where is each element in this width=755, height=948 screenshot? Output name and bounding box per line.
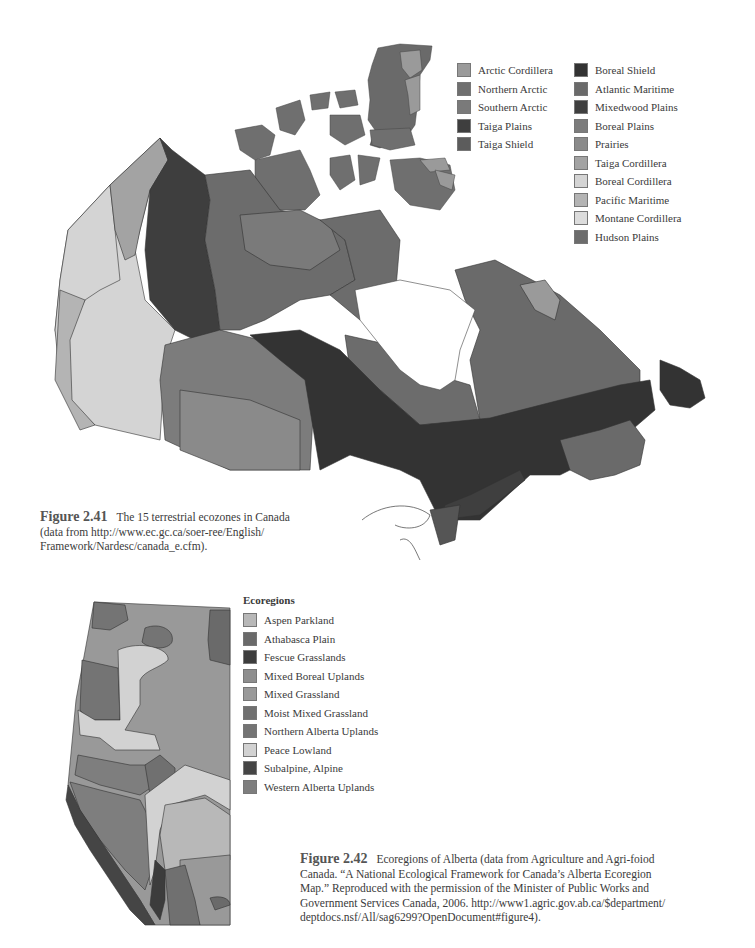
legend-item: Pacific Maritime [574, 191, 681, 210]
legend-item: Mixed Grassland [243, 685, 378, 704]
legend-swatch [243, 632, 257, 646]
legend-swatch [457, 63, 471, 77]
legend-item: Mixedwood Plains [574, 98, 681, 117]
legend-label: Mixedwood Plains [595, 101, 678, 113]
caption-line: Government Services Canada, 2006. http:/… [300, 896, 750, 911]
legend-label: Aspen Parkland [264, 614, 334, 626]
legend-swatch [243, 706, 257, 720]
legend-swatch [457, 137, 471, 151]
legend-label: Mixed Boreal Uplands [264, 670, 364, 682]
legend-label: Western Alberta Uplands [264, 781, 374, 793]
legend-swatch [574, 156, 588, 170]
legend-item: Western Alberta Uplands [243, 778, 378, 797]
legend-swatch [243, 650, 257, 664]
legend-swatch [243, 780, 257, 794]
legend-swatch [457, 119, 471, 133]
legend-swatch [574, 174, 588, 188]
legend-swatch [243, 724, 257, 738]
legend-swatch [243, 613, 257, 627]
legend-item: Athabasca Plain [243, 630, 378, 649]
legend-item: Prairies [574, 135, 681, 154]
legend-label: Hudson Plains [595, 231, 659, 243]
legend-label: Athabasca Plain [264, 633, 335, 645]
legend-label: Taiga Shield [478, 138, 533, 150]
legend-label: Boreal Shield [595, 64, 655, 76]
legend-label: Pacific Maritime [595, 194, 669, 206]
caption-line: The 15 terrestrial ecozones in Canada [116, 511, 289, 523]
legend-item: Fescue Grasslands [243, 648, 378, 667]
legend-item: Northern Alberta Uplands [243, 722, 378, 741]
figure-242-caption: Figure 2.42Ecoregions of Alberta (data f… [300, 852, 750, 925]
legend-swatch [574, 230, 588, 244]
figure-number: Figure 2.41 [40, 509, 107, 524]
legend-label: Arctic Cordillera [478, 64, 553, 76]
legend-item: Aspen Parkland [243, 611, 378, 630]
legend-swatch [243, 761, 257, 775]
legend-item: Taiga Plains [457, 117, 553, 136]
caption-line: Map.” Reproduced with the permission of … [300, 881, 750, 896]
legend-item: Peace Lowland [243, 741, 378, 760]
legend-label: Boreal Cordillera [595, 175, 672, 187]
ecozone-legend-column-1: Arctic Cordillera Northern Arctic Southe… [457, 61, 553, 154]
alberta-ecoregion-map [0, 570, 240, 940]
ecozone-legend-column-2: Boreal Shield Atlantic Maritime Mixedwoo… [574, 61, 681, 246]
legend-item: Montane Cordillera [574, 209, 681, 228]
arctic-islands [235, 44, 455, 210]
legend-item: Mixed Boreal Uplands [243, 667, 378, 686]
legend-swatch [243, 687, 257, 701]
caption-line: Canada. “A National Ecological Framework… [300, 867, 750, 882]
legend-item: Southern Arctic [457, 98, 553, 117]
legend-label: Boreal Plains [595, 120, 654, 132]
legend-label: Northern Arctic [478, 83, 547, 95]
legend-label: Peace Lowland [264, 744, 332, 756]
figure-number: Figure 2.42 [300, 851, 367, 866]
legend-swatch [574, 63, 588, 77]
great-lakes-outline [362, 506, 430, 560]
legend-swatch [574, 193, 588, 207]
legend-swatch [574, 211, 588, 225]
legend-label: Mixed Grassland [264, 688, 339, 700]
legend-label: Northern Alberta Uplands [264, 725, 378, 737]
legend-item: Atlantic Maritime [574, 80, 681, 99]
legend-swatch [574, 119, 588, 133]
legend-label: Subalpine, Alpine [264, 762, 343, 774]
caption-line: deptdocs.nsf/All/sag6299?OpenDocument#fi… [300, 910, 750, 925]
legend-swatch [574, 82, 588, 96]
legend-title: Ecoregions [243, 594, 378, 609]
legend-label: Atlantic Maritime [595, 83, 674, 95]
legend-item: Hudson Plains [574, 228, 681, 247]
legend-label: Southern Arctic [478, 101, 547, 113]
ecoregion-legend: Ecoregions Aspen Parkland Athabasca Plai… [243, 594, 378, 796]
legend-label: Taiga Cordillera [595, 157, 667, 169]
legend-item: Boreal Cordillera [574, 172, 681, 191]
legend-item: Subalpine, Alpine [243, 759, 378, 778]
legend-label: Prairies [595, 138, 629, 150]
legend-swatch [243, 669, 257, 683]
legend-swatch [574, 137, 588, 151]
legend-label: Moist Mixed Grassland [264, 707, 368, 719]
legend-item: Moist Mixed Grassland [243, 704, 378, 723]
caption-line: Framework/Nardesc/canada_e.cfm). [40, 539, 340, 554]
legend-swatch [457, 82, 471, 96]
legend-item: Taiga Cordillera [574, 154, 681, 173]
legend-label: Fescue Grasslands [264, 651, 346, 663]
legend-item: Northern Arctic [457, 80, 553, 99]
caption-line: (data from http://www.ec.gc.ca/soer-ree/… [40, 525, 340, 540]
legend-item: Arctic Cordillera [457, 61, 553, 80]
legend-swatch [243, 743, 257, 757]
legend-swatch [457, 100, 471, 114]
legend-label: Taiga Plains [478, 120, 532, 132]
legend-swatch [574, 100, 588, 114]
legend-item: Boreal Shield [574, 61, 681, 80]
legend-item: Taiga Shield [457, 135, 553, 154]
figure-241-caption: Figure 2.41The 15 terrestrial ecozones i… [40, 510, 340, 554]
caption-line: Ecoregions of Alberta (data from Agricul… [376, 853, 654, 865]
legend-label: Montane Cordillera [595, 212, 681, 224]
legend-item: Boreal Plains [574, 117, 681, 136]
